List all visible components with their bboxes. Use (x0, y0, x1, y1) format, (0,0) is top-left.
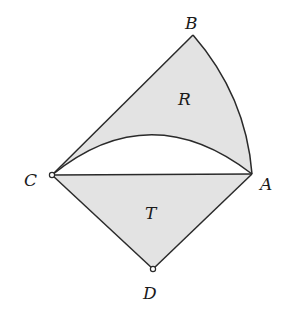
label-region-t: T (145, 203, 158, 223)
point-c-marker (49, 172, 54, 177)
point-d-marker (150, 266, 155, 271)
label-c: C (24, 170, 37, 190)
label-d: D (142, 283, 157, 303)
diagram-canvas: B C A D R T (0, 0, 291, 317)
label-b: B (184, 13, 198, 33)
label-region-r: R (177, 89, 191, 109)
segment-ca (52, 174, 252, 175)
label-a: A (258, 174, 272, 194)
